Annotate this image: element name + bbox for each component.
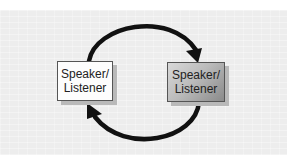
cycle-arrows [0,0,297,164]
node-right-line2: Listener [175,82,218,96]
arrowhead-right-icon [186,48,202,63]
node-left-line1: Speaker/ [61,67,109,81]
node-speaker-listener-left: Speaker/ Listener [57,61,113,101]
node-right-line1: Speaker/ [172,68,220,82]
node-left-line2: Listener [64,81,107,95]
arrow-top-arc [89,26,196,61]
arrow-bottom-arc [95,102,199,139]
node-speaker-listener-right: Speaker/ Listener [167,62,225,102]
